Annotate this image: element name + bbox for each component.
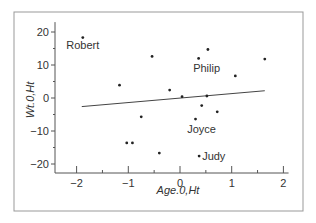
data-point [158,152,161,155]
data-point [168,89,171,92]
point-label: Robert [66,39,99,51]
data-point [198,155,201,158]
chart-frame [14,12,303,211]
data-point [207,48,210,51]
data-point [118,84,121,87]
data-point [197,57,200,60]
point-label: Judy [202,150,226,162]
data-point [216,110,219,113]
data-point [140,115,143,118]
x-axis-label: Age.0,Ht [156,184,201,196]
data-point [194,118,197,121]
y-tick-label: 0 [43,92,49,104]
point-label: Philip [193,62,220,74]
y-tick-label: 10 [37,59,49,71]
data-point [205,95,208,98]
data-point [181,95,184,98]
data-point [263,58,266,61]
data-point [151,55,154,58]
x-tick-label: −1 [122,177,135,189]
scatter-chart: 20100−10−20−2−1012 RobertJoycePhilipJudy… [0,0,316,223]
data-point [131,141,134,144]
x-tick-label: 2 [280,177,286,189]
data-point [200,104,203,107]
x-tick-label: −2 [70,177,83,189]
y-tick-label: −10 [30,125,49,137]
y-tick-label: 20 [37,26,49,38]
point-label: Joyce [187,123,216,135]
data-point [234,74,237,77]
x-tick-label: 1 [229,177,235,189]
data-point [125,141,128,144]
y-axis-label: Wt.0,Ht [24,81,36,119]
y-tick-label: −20 [30,158,49,170]
